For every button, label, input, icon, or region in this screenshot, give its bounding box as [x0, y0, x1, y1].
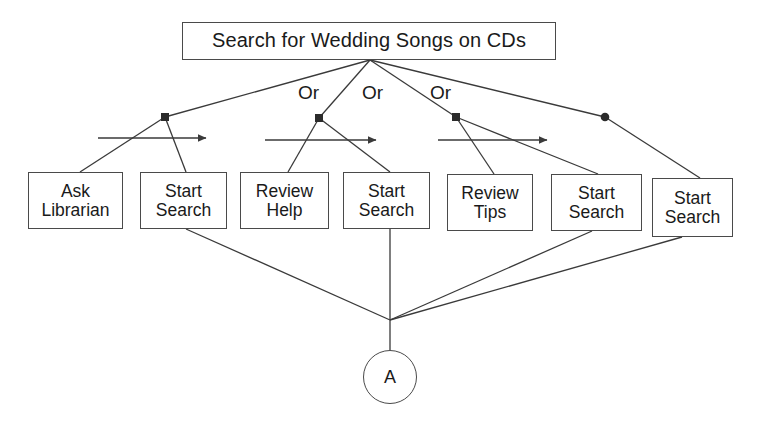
leg-b3-review-tips — [456, 117, 494, 174]
terminal-connector-label: A — [384, 367, 396, 388]
root-line-branch-4 — [370, 60, 605, 117]
node-review-tips-line1: Review — [461, 184, 518, 203]
flowchart-diagram: Search for Wedding Songs on CDs Or Or Or… — [0, 0, 760, 424]
root-branch-lines — [165, 60, 605, 118]
node-review-tips[interactable]: Review Tips — [447, 174, 533, 231]
leg-b4-start-search-4 — [605, 117, 700, 178]
junction-dot-branch-4 — [601, 113, 610, 122]
node-start-search-1-line1: Start — [165, 182, 202, 201]
node-start-search-1[interactable]: Start Search — [140, 172, 227, 229]
sequence-arrows — [98, 138, 547, 140]
node-review-tips-line2: Tips — [474, 203, 506, 222]
node-start-search-3[interactable]: Start Search — [551, 174, 642, 231]
or-label-3: Or — [430, 82, 451, 104]
junction-to-node-lines — [80, 117, 700, 178]
node-ask-librarian-line1: Ask — [61, 182, 90, 201]
node-start-search-4-line1: Start — [674, 189, 711, 208]
node-start-search-2-line2: Search — [359, 201, 414, 220]
junction-dots — [161, 113, 609, 122]
node-review-help-line2: Help — [267, 201, 303, 220]
convergence-lines — [186, 229, 682, 350]
converge-from-start-search-4 — [390, 237, 682, 320]
node-review-help-line1: Review — [256, 182, 313, 201]
root-node-label: Search for Wedding Songs on CDs — [212, 30, 526, 52]
root-node-search-for-wedding-songs[interactable]: Search for Wedding Songs on CDs — [182, 22, 556, 60]
terminal-connector-a[interactable]: A — [363, 350, 417, 404]
node-start-search-1-line2: Search — [156, 201, 211, 220]
leg-b2-start-search-2 — [319, 118, 390, 172]
node-start-search-3-line2: Search — [569, 203, 624, 222]
node-start-search-4-line2: Search — [665, 208, 720, 227]
or-label-1: Or — [298, 82, 319, 104]
leg-b1-ask-librarian — [80, 117, 165, 172]
node-ask-librarian-line2: Librarian — [41, 201, 109, 220]
junction-dot-branch-3 — [452, 113, 460, 121]
node-review-help[interactable]: Review Help — [240, 172, 329, 229]
converge-from-start-search-3 — [390, 231, 592, 320]
node-start-search-3-line1: Start — [578, 184, 615, 203]
junction-dot-branch-1 — [161, 113, 169, 121]
junction-dot-branch-2 — [315, 114, 323, 122]
converge-from-start-search-1 — [186, 229, 390, 320]
node-ask-librarian[interactable]: Ask Librarian — [28, 172, 123, 229]
node-start-search-2[interactable]: Start Search — [343, 172, 430, 229]
node-start-search-2-line1: Start — [368, 182, 405, 201]
leg-b1-start-search-1 — [165, 117, 186, 172]
leg-b2-review-help — [288, 118, 319, 172]
leg-b3-start-search-3 — [456, 117, 598, 174]
or-label-2: Or — [362, 82, 383, 104]
node-start-search-4[interactable]: Start Search — [652, 178, 733, 237]
root-line-branch-1 — [165, 60, 370, 117]
